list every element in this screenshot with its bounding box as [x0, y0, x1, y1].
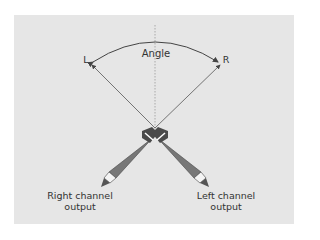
- right-channel-output-label: Right channel output: [40, 190, 120, 212]
- left-output-line2: output: [186, 201, 266, 212]
- left-channel-output-label: Left channel output: [186, 190, 266, 212]
- right-axis-arrow: [155, 65, 220, 128]
- left-axis-label: L: [80, 54, 92, 65]
- microphone-left-body: [101, 127, 158, 187]
- left-output-line1: Left channel: [186, 190, 266, 201]
- angle-label: Angle: [140, 48, 172, 59]
- right-output-line1: Right channel: [40, 190, 120, 201]
- left-axis-arrow: [92, 65, 155, 128]
- right-output-line2: output: [40, 201, 120, 212]
- right-axis-label: R: [220, 54, 232, 65]
- microphone-right-body: [152, 127, 209, 187]
